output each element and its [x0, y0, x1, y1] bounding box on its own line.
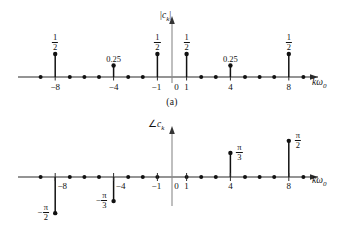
phase-y-axis-label-text: ∠ck: [148, 119, 164, 129]
zero-point-marker: [126, 175, 130, 179]
stem-marker: [111, 199, 115, 203]
magnitude-x-axis-label-text: kω0: [312, 77, 326, 87]
stem-marker: [228, 63, 232, 67]
zero-point-marker: [141, 175, 145, 179]
zero-point-marker: [97, 75, 101, 79]
stem-marker: [53, 211, 57, 215]
stem-marker: [111, 63, 115, 67]
x-tick-label: −8: [50, 82, 60, 92]
stem-value-label: −π2: [37, 203, 49, 222]
zero-point-marker: [141, 75, 145, 79]
stem-value-label: −π3: [96, 191, 108, 210]
x-tick-label: 4: [228, 82, 233, 92]
stem-marker: [287, 52, 291, 56]
x-tick-label: −4: [109, 82, 119, 92]
x-tick-label: −4: [116, 181, 126, 191]
zero-point-marker: [39, 175, 43, 179]
zero-point-marker: [68, 75, 72, 79]
magnitude-y-axis-label: |ck|: [160, 11, 171, 23]
x-tick-label: 1: [184, 181, 189, 191]
zero-point-marker: [258, 75, 262, 79]
zero-point-marker: [243, 75, 247, 79]
x-tick-label: −1: [152, 181, 162, 191]
stem-value-label: 12: [286, 33, 292, 52]
zero-point-marker: [214, 75, 218, 79]
stem-value-label: 0.25: [106, 54, 121, 64]
zero-point-marker: [126, 75, 130, 79]
zero-point-marker: [68, 175, 72, 179]
x-tick-label: 8: [287, 82, 292, 92]
zero-point-marker: [82, 175, 86, 179]
fourier-spectra-figure: |ck| kω0 (a) 120.2512120.2512−8−4−10148 …: [0, 0, 344, 228]
stem-value-label: π2: [295, 131, 301, 150]
stem-value-label: 0.25: [223, 54, 238, 64]
phase-spectrum-plot: [0, 114, 344, 228]
phase-x-axis-label: kω0: [312, 176, 326, 188]
magnitude-spectrum-panel: |ck| kω0 (a) 120.2512120.2512−8−4−10148: [0, 0, 344, 114]
zero-point-marker: [301, 75, 305, 79]
stem-marker: [53, 52, 57, 56]
panel-a-caption: (a): [0, 97, 344, 107]
zero-point-marker: [258, 175, 262, 179]
zero-point-marker: [272, 175, 276, 179]
x-tick-label: −8: [57, 181, 67, 191]
stem-marker: [228, 151, 232, 155]
zero-point-marker: [97, 175, 101, 179]
magnitude-x-axis-label: kω0: [312, 78, 326, 90]
stem-value-label: π3: [236, 143, 242, 162]
phase-x-axis-label-text: kω0: [312, 175, 326, 185]
phase-spectrum-panel: ∠ck kω0 (b) −π2−π3π3π2−8−4−10148: [0, 114, 344, 228]
x-tick-label: −1: [152, 82, 162, 92]
x-tick-label: 4: [228, 181, 233, 191]
stem-value-label: 12: [183, 33, 189, 52]
stem-marker: [155, 52, 159, 56]
stem-marker: [287, 139, 291, 143]
zero-point-marker: [82, 75, 86, 79]
stem-marker: [184, 52, 188, 56]
phase-y-axis-label: ∠ck: [148, 120, 164, 132]
zero-point-marker: [301, 175, 305, 179]
zero-point-marker: [199, 75, 203, 79]
x-tick-label: 0: [174, 181, 179, 191]
magnitude-y-axis-label-text: |ck|: [160, 10, 171, 20]
stem-value-label: 12: [154, 33, 160, 52]
x-tick-label: 0: [174, 82, 179, 92]
zero-point-marker: [272, 75, 276, 79]
zero-point-marker: [39, 75, 43, 79]
zero-point-marker: [243, 175, 247, 179]
x-tick-label: 8: [287, 181, 292, 191]
stem-value-label: 12: [52, 33, 58, 52]
zero-point-marker: [199, 175, 203, 179]
zero-point-marker: [214, 175, 218, 179]
x-tick-label: 1: [184, 82, 189, 92]
